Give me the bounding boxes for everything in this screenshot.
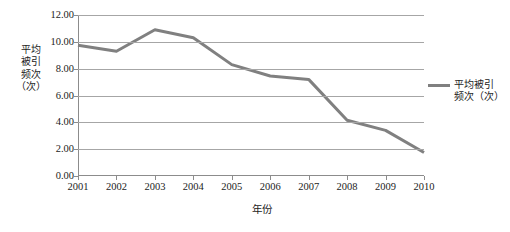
x-axis-tick-label: 2008: [325, 180, 369, 193]
series-polyline: [78, 30, 424, 153]
gridline: [78, 42, 424, 43]
plot-area: [78, 15, 424, 176]
gridline: [78, 96, 424, 97]
gridline: [78, 69, 424, 70]
y-axis-tick-label: 4.00: [36, 117, 74, 128]
line-chart: 平均 被引 频次 （次） 0.002.004.006.008.0010.0012…: [0, 0, 510, 232]
x-axis-tick-label: 2005: [210, 180, 254, 193]
x-axis-tick-label: 2007: [287, 180, 331, 193]
x-axis-title: 年份: [0, 201, 510, 216]
gridline: [78, 15, 424, 16]
y-axis-tick-label: 10.00: [36, 37, 74, 48]
y-axis-tick-labels: 0.002.004.006.008.0010.0012.00: [36, 10, 74, 176]
gridline: [78, 122, 424, 123]
x-axis-title-text: 年份: [252, 201, 272, 216]
y-axis-tick-label: 6.00: [36, 90, 74, 101]
y-axis-tick-label: 8.00: [36, 63, 74, 74]
x-axis-tick-label: 2009: [364, 180, 408, 193]
x-axis-tick-labels: 2001200220032004200520062007200820092010: [78, 180, 424, 196]
y-axis-tick-label: 2.00: [36, 144, 74, 155]
x-axis-tick-label: 2004: [171, 180, 215, 193]
x-axis-tick-label: 2003: [133, 180, 177, 193]
x-axis-tick-label: 2010: [402, 180, 446, 193]
legend-line-swatch-icon: [428, 84, 450, 87]
x-axis-tick-label: 2002: [94, 180, 138, 193]
gridline: [78, 149, 424, 150]
legend-label-average-citations: 平均被引 频次（次）: [454, 79, 502, 104]
x-axis-tick-label: 2001: [56, 180, 100, 193]
y-axis-tick-label: 12.00: [36, 10, 74, 21]
chart-legend: 平均被引 频次（次）: [428, 79, 502, 104]
x-axis-tick-label: 2006: [248, 180, 292, 193]
